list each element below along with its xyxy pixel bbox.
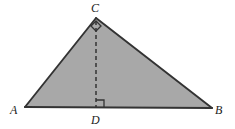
geometry-figure: A B C D [0, 0, 235, 129]
side-ab [25, 107, 212, 108]
vertex-label-b: B [215, 104, 222, 116]
triangle-diagram-svg [0, 0, 235, 129]
triangle-fill [25, 18, 212, 108]
vertex-label-d: D [91, 114, 100, 126]
vertex-label-c: C [91, 2, 99, 14]
vertex-label-a: A [10, 104, 17, 116]
